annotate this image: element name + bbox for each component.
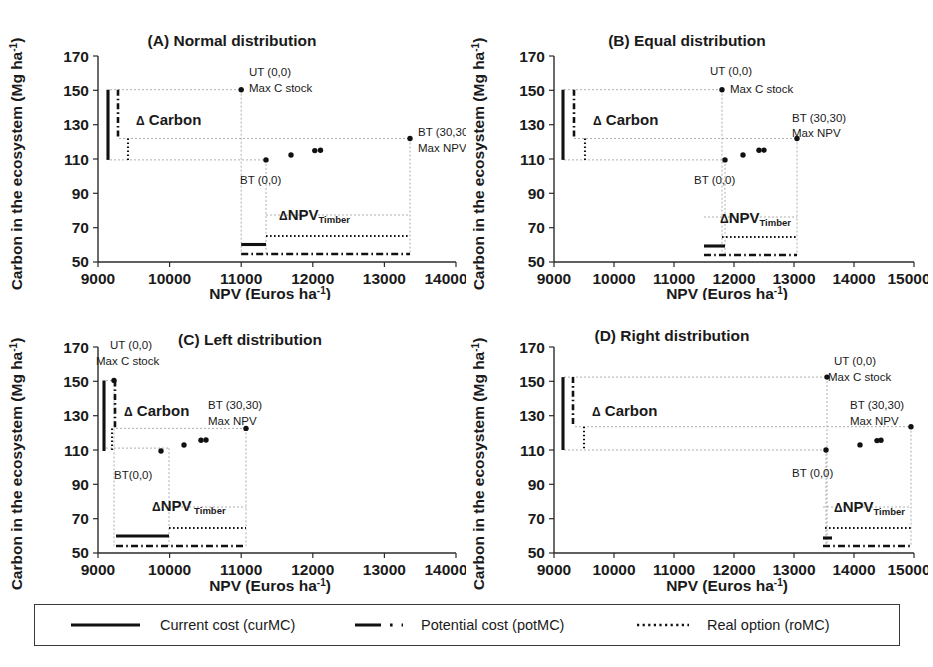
point-bt-3030 bbox=[908, 424, 913, 429]
svg-text:70: 70 bbox=[528, 510, 545, 527]
point-bt-3030 bbox=[407, 136, 412, 141]
point-mid-3 bbox=[203, 437, 208, 442]
panel-b-y-ticks bbox=[549, 56, 554, 262]
panel-a-delta-carbon-label: Δ Carbon bbox=[136, 111, 201, 128]
panel-d-data-points bbox=[823, 374, 913, 452]
svg-text:90: 90 bbox=[72, 185, 89, 202]
panel-b-delta-npv-label: ΔNPVTimber bbox=[720, 209, 791, 228]
svg-text:15000: 15000 bbox=[887, 270, 928, 287]
panel-b-btmax-label-line1: BT (30,30) bbox=[792, 112, 846, 124]
svg-text:14000: 14000 bbox=[424, 561, 466, 578]
panel-b-x-axis-title: NPV (Euros ha-1) bbox=[666, 285, 788, 300]
panel-d-y-axis-title: Carbon in the ecosystem (Mg ha-1) bbox=[470, 338, 487, 591]
legend-label-romc: Real option (roMC) bbox=[707, 617, 830, 633]
svg-text:10000: 10000 bbox=[148, 270, 191, 287]
panel-c-ut-label-line2: Max C stock bbox=[96, 355, 160, 367]
svg-text:130: 130 bbox=[63, 407, 89, 424]
panel-c-y-axis-title: Carbon in the ecosystem (Mg ha-1) bbox=[8, 338, 25, 591]
panel-c-y-tick-labels: 170 150 130 110 90 70 50 bbox=[63, 339, 89, 561]
svg-text:150: 150 bbox=[63, 82, 89, 99]
svg-text:110: 110 bbox=[520, 442, 545, 459]
svg-text:13000: 13000 bbox=[772, 561, 815, 578]
panel-b-y-tick-labels: 170 150 130 110 90 70 50 bbox=[519, 48, 545, 270]
svg-text:90: 90 bbox=[72, 476, 89, 493]
figure-legend: Current cost (curMC) Potential cost (pot… bbox=[34, 604, 900, 646]
svg-text:9000: 9000 bbox=[537, 270, 571, 287]
svg-text:70: 70 bbox=[528, 219, 545, 236]
svg-text:50: 50 bbox=[528, 544, 545, 561]
panel-b-y-axis-title: Carbon in the ecosystem (Mg ha-1) bbox=[470, 38, 487, 291]
point-ut-00 bbox=[239, 87, 244, 92]
panel-a-normal-distribution: (A) Normal distribution Carbon in the ec… bbox=[0, 4, 466, 300]
panel-c-y-ticks bbox=[93, 347, 98, 553]
panel-a-y-axis-title: Carbon in the ecosystem (Mg ha-1) bbox=[8, 38, 25, 291]
svg-text:15000: 15000 bbox=[887, 561, 928, 578]
svg-text:50: 50 bbox=[72, 544, 89, 561]
panel-c-delta-carbon-label: Δ Carbon bbox=[124, 402, 189, 419]
panel-d-ut-label-line1: UT (0,0) bbox=[834, 355, 876, 367]
panel-d-x-tick-labels: 9000 10000 11000 12000 13000 14000 15000 bbox=[537, 561, 928, 578]
svg-text:110: 110 bbox=[64, 151, 89, 168]
panel-a-btmax-label-line1: BT (30,30) bbox=[418, 126, 466, 138]
panel-d-right-distribution: (D) Right distribution Carbon in the eco… bbox=[462, 299, 928, 595]
panel-b-title: (B) Equal distribution bbox=[608, 32, 766, 49]
panel-b-bt00-label: BT (0,0) bbox=[694, 174, 735, 186]
svg-text:110: 110 bbox=[64, 442, 89, 459]
point-mid-1 bbox=[740, 152, 745, 157]
svg-text:90: 90 bbox=[528, 185, 545, 202]
point-mid-2 bbox=[198, 438, 203, 443]
panel-b-ut-label-line2: Max C stock bbox=[730, 83, 794, 95]
panel-c-delta-npv-label: ΔNPV Timber bbox=[152, 497, 226, 516]
svg-text:Carbon in the ecosystem (Mg ha: Carbon in the ecosystem (Mg ha-1) bbox=[470, 338, 487, 591]
panel-a-x-ticks bbox=[98, 262, 456, 267]
svg-text:12000: 12000 bbox=[291, 561, 334, 578]
panel-d-ut-label-line2: Max C stock bbox=[828, 371, 892, 383]
svg-text:9000: 9000 bbox=[81, 270, 115, 287]
panel-c-bt00-label: BT(0,0) bbox=[114, 469, 153, 481]
panel-b-plot: (B) Equal distribution Carbon in the eco… bbox=[462, 4, 928, 300]
panel-a-delta-npv-label: ΔNPVTimber bbox=[279, 206, 350, 225]
panel-d-btmax-label-line2: Max NPV bbox=[850, 415, 899, 427]
panel-c-x-ticks bbox=[98, 553, 456, 558]
svg-text:170: 170 bbox=[519, 339, 545, 356]
svg-text:11000: 11000 bbox=[220, 561, 262, 578]
svg-text:14000: 14000 bbox=[832, 561, 875, 578]
panel-b-ut-label-line1: UT (0,0) bbox=[710, 65, 752, 77]
panel-a-y-ticks bbox=[93, 56, 98, 262]
panel-d-delta-carbon-label: Δ Carbon bbox=[592, 402, 657, 419]
svg-text:14000: 14000 bbox=[832, 270, 875, 287]
svg-text:70: 70 bbox=[72, 510, 89, 527]
legend-label-curmc: Current cost (curMC) bbox=[160, 617, 295, 633]
panel-a-bt00-label: BT (0,0) bbox=[240, 174, 281, 186]
panel-c-left-distribution: (C) Left distribution Carbon in the ecos… bbox=[0, 299, 466, 595]
svg-text:130: 130 bbox=[519, 407, 545, 424]
panel-b-data-points bbox=[719, 87, 799, 163]
point-bt-00 bbox=[158, 448, 163, 453]
panel-d-bt00-label: BT (0,0) bbox=[792, 467, 833, 479]
point-bt-00 bbox=[823, 447, 828, 452]
panel-d-y-ticks bbox=[549, 347, 554, 553]
panel-c-x-axis-title: NPV (Euros ha-1) bbox=[209, 577, 331, 594]
point-bt-00 bbox=[722, 157, 727, 162]
svg-text:9000: 9000 bbox=[81, 561, 115, 578]
legend-content: Current cost (curMC) Potential cost (pot… bbox=[35, 605, 899, 645]
svg-text:13000: 13000 bbox=[363, 561, 406, 578]
svg-text:13000: 13000 bbox=[363, 270, 406, 287]
panel-a-title: (A) Normal distribution bbox=[148, 32, 317, 49]
panel-a-x-axis-title: NPV (Euros ha-1) bbox=[209, 285, 331, 300]
panel-b-btmax-label-line2: Max NPV bbox=[792, 127, 841, 139]
svg-text:150: 150 bbox=[519, 373, 545, 390]
svg-text:170: 170 bbox=[63, 339, 89, 356]
panel-d-delta-npv-label: ΔNPVTimber bbox=[834, 498, 905, 517]
point-mid-3 bbox=[318, 148, 323, 153]
panel-c-plot: (C) Left distribution Carbon in the ecos… bbox=[0, 299, 466, 595]
svg-text:9000: 9000 bbox=[537, 561, 571, 578]
panel-d-title: (D) Right distribution bbox=[595, 327, 750, 344]
point-mid-3 bbox=[878, 438, 883, 443]
panel-d-y-tick-labels: 170 150 130 110 90 70 50 bbox=[519, 339, 545, 561]
panel-c-btmax-label-line2: Max NPV bbox=[208, 415, 257, 427]
point-bt-00 bbox=[263, 157, 268, 162]
panel-c-ut-label-line1: UT (0,0) bbox=[110, 339, 152, 351]
panel-d-x-ticks bbox=[554, 553, 914, 558]
svg-text:Carbon in the ecosystem (Mg ha: Carbon in the ecosystem (Mg ha-1) bbox=[8, 38, 25, 291]
